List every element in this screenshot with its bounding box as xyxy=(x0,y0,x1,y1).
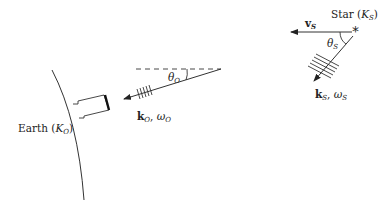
star-label-text: Star xyxy=(331,8,354,20)
omega-o-sub: O xyxy=(165,116,171,124)
theta-s-sub: S xyxy=(333,43,338,51)
star-frame-symbol: K xyxy=(361,8,369,20)
k-s-sep: , xyxy=(327,88,334,100)
omega-s-sub: S xyxy=(342,94,347,102)
theta-s-arc xyxy=(340,32,346,44)
omega-o-symbol: ω xyxy=(157,110,166,122)
k-o-sep: , xyxy=(150,110,157,122)
theta-o-label: θO xyxy=(168,72,180,85)
telescope-icon xyxy=(73,95,109,118)
observer-wave-label: kO, ωO xyxy=(137,111,171,124)
observer-wavefront-hatches xyxy=(137,85,152,99)
star-label: Star (KS) xyxy=(331,9,378,22)
earth-label-text: Earth xyxy=(18,122,48,134)
theta-s-label: θS xyxy=(327,38,338,51)
star-wave-label: kS, ωS xyxy=(315,89,347,102)
theta-o-arc xyxy=(186,69,187,80)
earth-frame-close: ) xyxy=(69,122,73,134)
star-velocity-label: vS xyxy=(305,18,316,30)
star-frame-close: ) xyxy=(374,8,378,20)
earth-label: Earth (KO) xyxy=(18,123,73,136)
diagram-graphics xyxy=(0,0,386,208)
star-marker-icon: * xyxy=(352,24,359,38)
velocity-sub: S xyxy=(311,22,316,31)
relativistic-doppler-diagram: Star (KS) * vS θS kS, ωS θO kO, ωO Earth… xyxy=(0,0,386,208)
theta-o-sub: O xyxy=(174,77,180,85)
